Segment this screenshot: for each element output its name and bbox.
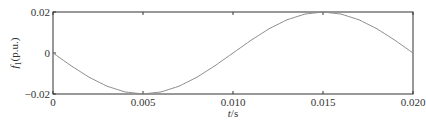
series-f1-line	[53, 12, 413, 94]
x-tick-label: 0.020	[401, 96, 426, 108]
y-tick-label: 0	[45, 47, 51, 59]
line-chart: 0.020−0.02 00.0050.0100.0150.020 t/s f1(…	[0, 0, 426, 122]
y-axis-label: f1(p.u.)	[8, 37, 23, 68]
x-tick-label: 0.005	[131, 96, 156, 108]
y-tick-label: 0.02	[31, 6, 50, 18]
x-tick-label: 0.015	[311, 96, 336, 108]
y-axis-ticks: 0.020−0.02	[25, 6, 56, 100]
x-tick-label: 0	[50, 96, 56, 108]
x-axis-label: t/s	[228, 107, 238, 119]
y-tick-label: −0.02	[25, 88, 50, 100]
